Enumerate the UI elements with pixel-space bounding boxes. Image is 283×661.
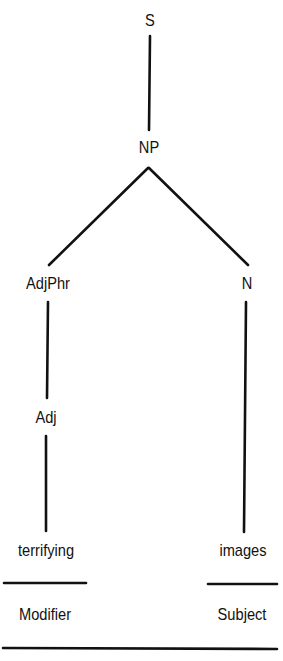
syntax-tree-diagram: [0, 0, 283, 661]
edge-np-adjphr: [49, 168, 148, 265]
node-adjphr: AdjPhr: [26, 275, 70, 292]
node-s: S: [145, 12, 155, 29]
leaf-word-terrifying: terrifying: [18, 542, 74, 559]
function-label-modifier: Modifier: [19, 606, 71, 623]
node-np: NP: [139, 139, 159, 156]
node-adj: Adj: [35, 409, 56, 426]
edge-np-n: [149, 168, 248, 265]
leaf-word-images: images: [219, 542, 266, 559]
function-label-subject: Subject: [218, 606, 267, 623]
edge-n-images: [244, 302, 246, 532]
node-n: N: [242, 275, 253, 292]
edge-adjphr-adj: [47, 302, 48, 398]
edge-s-np: [149, 36, 150, 130]
rule-bottom-long: [3, 648, 277, 649]
